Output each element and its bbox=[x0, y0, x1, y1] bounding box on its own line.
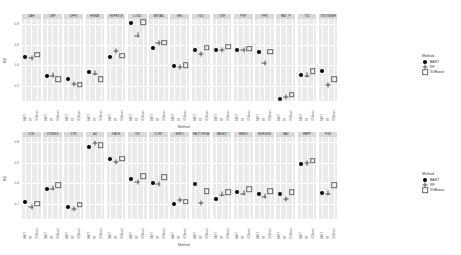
gridline bbox=[301, 137, 302, 219]
data-point-xgboost bbox=[140, 19, 146, 25]
plot-area bbox=[276, 19, 295, 101]
x-tick-label: BART bbox=[257, 232, 260, 239]
data-point-bart bbox=[45, 187, 49, 191]
plot-area bbox=[213, 19, 232, 101]
x-tick-label: XGBoost bbox=[142, 229, 145, 239]
facet-panel: NAV bbox=[276, 132, 295, 219]
data-point-xgboost bbox=[98, 142, 104, 148]
x-tick-label: XGBoost bbox=[78, 229, 81, 239]
x-tick-label: XGBoost bbox=[163, 111, 166, 121]
gridline bbox=[186, 19, 187, 101]
x-tick-label: XGBoost bbox=[121, 229, 124, 239]
x-tick-label: XGBoost bbox=[206, 111, 209, 121]
gridline bbox=[180, 19, 181, 101]
gridline bbox=[110, 137, 111, 219]
facet-panel: OD1 bbox=[192, 14, 211, 101]
data-point-rf bbox=[135, 33, 140, 38]
gridline bbox=[286, 137, 287, 219]
x-tick-label: RF bbox=[221, 118, 224, 121]
facet-panel: ZOK bbox=[64, 132, 83, 219]
plot-area bbox=[107, 137, 126, 219]
x-tick-label: XGBoost bbox=[100, 229, 103, 239]
filled-circle-icon bbox=[423, 60, 427, 64]
data-point-bart bbox=[193, 182, 197, 186]
x-tick-label: XGBoost bbox=[184, 229, 187, 239]
x-tick-label: BART bbox=[278, 232, 281, 239]
data-point-xgboost bbox=[183, 62, 189, 68]
gridline bbox=[158, 137, 159, 219]
gridline bbox=[292, 19, 293, 101]
x-tick-label: BART bbox=[151, 114, 154, 121]
data-point-xgboost bbox=[204, 45, 210, 51]
legend-key-xgboost bbox=[422, 70, 428, 75]
facet-panel: OXI bbox=[128, 132, 147, 219]
gridline bbox=[307, 19, 308, 101]
plot-area bbox=[276, 137, 295, 219]
x-tick-label: XGBoost bbox=[163, 229, 166, 239]
x-tick-label: BART bbox=[66, 232, 69, 239]
facet-panel: TWOSMBH bbox=[319, 14, 338, 101]
data-point-bart bbox=[214, 197, 218, 201]
gridline bbox=[207, 19, 208, 101]
data-point-xgboost bbox=[34, 201, 40, 207]
plot-area bbox=[319, 19, 338, 101]
plot-area bbox=[64, 19, 83, 101]
x-tick-label: BART bbox=[24, 114, 27, 121]
data-point-xgboost bbox=[56, 182, 62, 188]
x-tick-label: XGBoost bbox=[206, 229, 209, 239]
x-tick-label: BART bbox=[24, 232, 27, 239]
data-point-bart bbox=[172, 64, 176, 68]
x-tick-label: XGBoost bbox=[290, 111, 293, 121]
plot-area bbox=[170, 137, 189, 219]
x-tick-label: RF bbox=[51, 236, 54, 239]
gridline bbox=[259, 19, 260, 101]
gridline bbox=[207, 137, 208, 219]
x-tick-label: BART bbox=[109, 232, 112, 239]
gridline bbox=[228, 19, 229, 101]
x-tick-label: RF bbox=[242, 118, 245, 121]
data-point-rf bbox=[220, 47, 225, 52]
data-point-xgboost bbox=[289, 92, 295, 98]
plot-area bbox=[107, 19, 126, 101]
y-tick-label: 0.6 bbox=[5, 43, 19, 47]
gridline bbox=[313, 137, 314, 219]
data-point-rf bbox=[114, 159, 119, 164]
gridline bbox=[328, 19, 329, 101]
x-tick-label: BART bbox=[151, 232, 154, 239]
gridline bbox=[322, 19, 323, 101]
x-tick-label: RF bbox=[263, 118, 266, 121]
facet-panel: DAH bbox=[22, 14, 41, 101]
data-point-xgboost bbox=[119, 53, 125, 59]
x-tick-label: RF bbox=[263, 236, 266, 239]
facet-panel: HVPRICE bbox=[107, 14, 126, 101]
gridline bbox=[334, 137, 335, 219]
data-point-bart bbox=[278, 192, 282, 196]
data-point-xgboost bbox=[56, 77, 62, 83]
data-point-bart bbox=[108, 55, 112, 59]
data-point-rf bbox=[92, 71, 97, 76]
gridline bbox=[110, 19, 111, 101]
data-point-rf bbox=[135, 180, 140, 185]
plot-area bbox=[192, 137, 211, 219]
x-tick-label: BART bbox=[215, 114, 218, 121]
x-tick-label: XGBoost bbox=[227, 111, 230, 121]
gridline bbox=[180, 137, 181, 219]
x-tick-label: BART bbox=[130, 114, 133, 121]
gridline bbox=[174, 137, 175, 219]
y-tick-label: 0.6 bbox=[5, 161, 19, 165]
x-tick-label: BART bbox=[130, 232, 133, 239]
data-point-xgboost bbox=[98, 77, 104, 83]
facet-panel: METAB bbox=[149, 14, 168, 101]
data-point-xgboost bbox=[162, 40, 168, 46]
gridline bbox=[186, 137, 187, 219]
x-tick-label: RF bbox=[30, 236, 33, 239]
data-point-rf bbox=[283, 94, 288, 99]
gridline bbox=[243, 137, 244, 219]
legend-label: XGBoost bbox=[430, 70, 444, 74]
data-point-rf bbox=[71, 206, 76, 211]
x-tick-label: BART bbox=[172, 232, 175, 239]
data-point-bart bbox=[214, 48, 218, 52]
x-tick-label: RF bbox=[200, 118, 203, 121]
gridline bbox=[301, 19, 302, 101]
x-tick-label: RF bbox=[136, 236, 139, 239]
